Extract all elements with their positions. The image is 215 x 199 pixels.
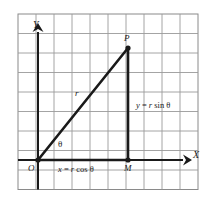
radius-label: r xyxy=(75,89,79,98)
y-equation-label: y = r sin θ xyxy=(136,101,170,110)
x-equation-coefficient: r xyxy=(71,164,74,174)
x-equation-lhs: x xyxy=(58,164,62,174)
origin-dot xyxy=(35,157,40,162)
y-equation-lhs: y xyxy=(136,100,140,110)
figure-canvas: Y X O P M r θ x = r cos θ y = r sin θ xyxy=(0,0,215,199)
y-axis-label: Y xyxy=(33,20,39,30)
origin-label: O xyxy=(28,164,35,173)
x-equation-label: x = r cos θ xyxy=(58,165,94,174)
angle-theta-label: θ xyxy=(58,140,62,149)
x-equation-argument: θ xyxy=(90,164,94,174)
point-p-dot xyxy=(125,45,130,50)
y-equation-equals: = xyxy=(142,100,147,110)
x-equation-function: cos xyxy=(76,164,87,174)
grid-group xyxy=(18,14,198,190)
y-equation-function: sin xyxy=(154,100,164,110)
point-m-label: M xyxy=(124,164,132,173)
y-equation-coefficient: r xyxy=(149,100,152,110)
y-equation-argument: θ xyxy=(166,100,170,110)
point-m-dot xyxy=(125,157,130,162)
x-axis-label: X xyxy=(193,150,199,160)
point-p-label: P xyxy=(124,34,130,43)
x-equation-equals: = xyxy=(64,164,69,174)
